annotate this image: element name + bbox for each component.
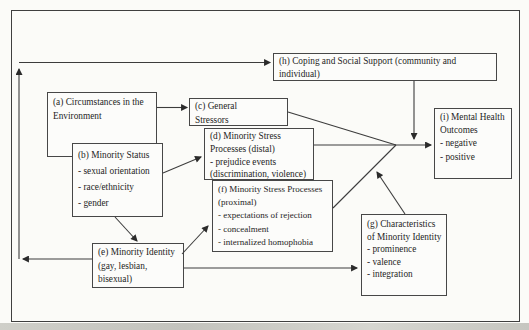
box-text-line: (a) Circumstances in the [53,96,153,110]
box-text-line: (b) Minority Status [78,147,159,163]
box-i-mental-health-outcomes: (i) Mental Health Outcomes - negative - … [434,108,512,179]
box-text-line: (c) General [195,100,284,114]
box-text-line: - prejudice events [210,156,310,169]
box-text-line: (d) Minority Stress [210,130,310,143]
box-text-line: (h) Coping and Social Support (community… [279,55,493,68]
box-text-line: (proximal) [218,196,329,209]
box-text-line: bisexual) [98,273,180,287]
box-text-line: - integration [367,268,443,281]
box-h-coping-social-support: (h) Coping and Social Support (community… [273,53,497,81]
box-text-line: (gay, lesbian, [98,260,180,274]
box-text-line: - prominence [367,243,443,256]
figure-canvas: (a) Circumstances in the Environment (b)… [0,0,529,330]
box-text-line: (f) Minority Stress Processes [218,183,329,196]
box-d-minority-stress-distal: (d) Minority Stress Processes (distal) -… [204,128,314,180]
box-text-line: Stressors [195,114,284,128]
box-text-line: (g) Characteristics [367,218,443,231]
box-text-line: - negative [440,137,508,150]
box-g-characteristics-minority-identity: (g) Characteristics of Minority Identity… [361,214,447,296]
box-c-general-stressors: (c) General Stressors [189,98,288,126]
box-text-line: - valence [367,256,443,269]
page-scan-edge [0,323,529,330]
box-text-line: Processes (distal) [210,143,310,156]
box-text-line: Environment [53,110,153,124]
box-text-line: of Minority Identity [367,231,443,244]
box-text-line: (i) Mental Health [440,111,508,124]
box-text-line: Outcomes [440,124,508,137]
box-text-line: - sexual orientation [78,163,159,179]
box-text-line: - gender [78,195,159,211]
box-text-line: - concealment [218,223,329,236]
box-text-line: - positive [440,151,508,164]
box-text-line: individual) [279,68,493,81]
box-text-line: - race/ethnicity [78,179,159,195]
box-e-minority-identity: (e) Minority Identity (gay, lesbian, bis… [92,243,184,288]
box-text-line: - expectations of rejection [218,209,329,222]
box-f-minority-stress-proximal: (f) Minority Stress Processes (proximal)… [212,180,333,252]
box-text-line: (e) Minority Identity [98,246,180,260]
box-text-line: - internalized homophobia [218,236,329,249]
box-b-minority-status: (b) Minority Status - sexual orientation… [72,143,163,217]
